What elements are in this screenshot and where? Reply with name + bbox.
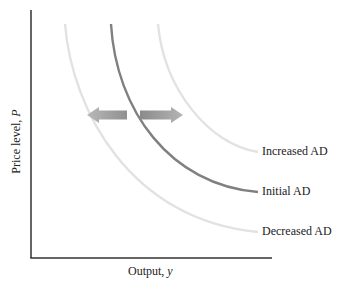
initial-ad-label: Initial AD xyxy=(262,184,310,199)
increased-ad-label: Increased AD xyxy=(262,144,328,159)
x-axis-label: Output, y xyxy=(128,264,173,279)
initial-ad-curve xyxy=(111,24,258,192)
shift-right-arrow-icon xyxy=(140,107,183,123)
ad-shift-diagram xyxy=(0,0,338,285)
y-axis-label: Price level, P xyxy=(9,100,24,184)
decreased-ad-curve xyxy=(65,24,258,232)
decreased-ad-label: Decreased AD xyxy=(262,224,332,239)
increased-ad-curve xyxy=(158,24,258,152)
